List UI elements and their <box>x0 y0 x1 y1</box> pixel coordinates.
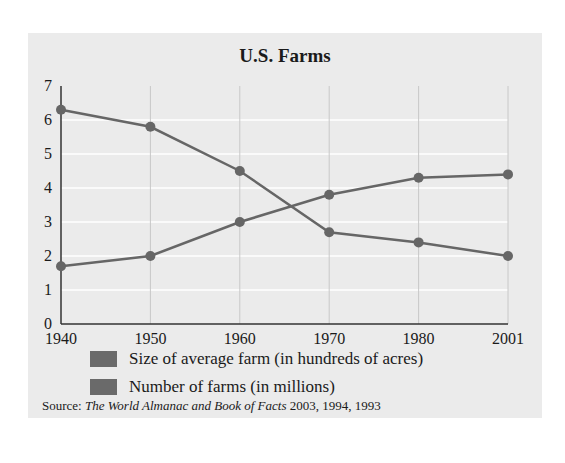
data-point-marker <box>235 166 245 176</box>
source-note: Source: The World Almanac and Book of Fa… <box>42 398 381 414</box>
y-tick-label: 3 <box>44 213 52 230</box>
data-point-marker <box>145 122 155 132</box>
chart-legend: Size of average farm (in hundreds of acr… <box>90 345 423 401</box>
x-tick-label: 1940 <box>45 330 77 347</box>
y-tick-label: 1 <box>44 281 52 298</box>
line-chart-plot: 01234567194019501960197019802001 <box>28 33 542 353</box>
series-line <box>61 110 508 256</box>
data-point-marker <box>56 261 66 271</box>
data-point-marker <box>235 217 245 227</box>
y-tick-label: 4 <box>44 179 52 196</box>
y-tick-label: 7 <box>44 77 52 94</box>
legend-label: Number of farms (in millions) <box>129 377 335 397</box>
chart-panel: U.S. Farms 01234567194019501960197019802… <box>28 33 542 418</box>
data-point-marker <box>145 251 155 261</box>
y-tick-label: 5 <box>44 145 52 162</box>
y-tick-label: 2 <box>44 247 52 264</box>
data-point-marker <box>324 190 334 200</box>
legend-swatch <box>90 379 117 395</box>
data-point-marker <box>503 251 513 261</box>
x-tick-label: 2001 <box>492 330 524 347</box>
legend-item-farm-count: Number of farms (in millions) <box>90 373 423 401</box>
data-point-marker <box>414 173 424 183</box>
source-prefix: Source: <box>42 398 85 413</box>
data-point-marker <box>414 237 424 247</box>
legend-label: Size of average farm (in hundreds of acr… <box>129 349 423 369</box>
data-point-marker <box>503 169 513 179</box>
data-point-marker <box>56 105 66 115</box>
data-point-marker <box>324 227 334 237</box>
source-years: 2003, 1994, 1993 <box>286 398 380 413</box>
source-title: The World Almanac and Book of Facts <box>85 398 287 413</box>
legend-swatch <box>90 351 117 367</box>
y-tick-label: 6 <box>44 111 52 128</box>
legend-item-farm-size: Size of average farm (in hundreds of acr… <box>90 345 423 373</box>
